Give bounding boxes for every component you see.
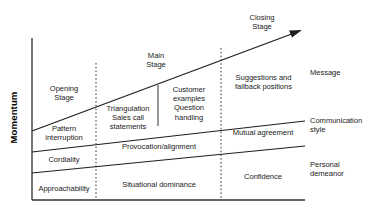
cell-confidence: Confidence	[222, 172, 304, 181]
stage-label-opening: Opening Stage	[36, 84, 92, 102]
row-label-message: Message	[310, 68, 386, 77]
cell-mutual-agreement: Mutual agreement	[222, 128, 304, 137]
cell-triangulation: Triangulation Sales call statements	[98, 104, 158, 132]
stage-label-main: Main Stage	[133, 51, 179, 69]
momentum-stage-diagram: Momentum Opening Stage Main Stage Closin…	[0, 0, 388, 219]
row-label-communication-style: Communication style	[310, 116, 386, 134]
cell-cordiality: Cordiality	[34, 155, 94, 164]
cell-customer-examples: Customer examples Question handling	[160, 85, 218, 122]
y-axis-title: Momentum	[8, 88, 19, 148]
cell-suggestions-fallback: Suggestions and fallback positions	[222, 73, 305, 91]
cell-approachability: Approachability	[33, 184, 95, 193]
row-label-personal-demeanor: Personal demeanor	[310, 160, 386, 178]
cell-situational-dominance: Situational dominance	[98, 180, 220, 189]
momentum-arrow-head	[289, 30, 302, 38]
cell-pattern-interruption: Pattern interruption	[34, 124, 94, 142]
cell-provocation-alignment: Provocation/alignment	[98, 142, 220, 151]
stage-label-closing: Closing Stage	[236, 13, 288, 31]
